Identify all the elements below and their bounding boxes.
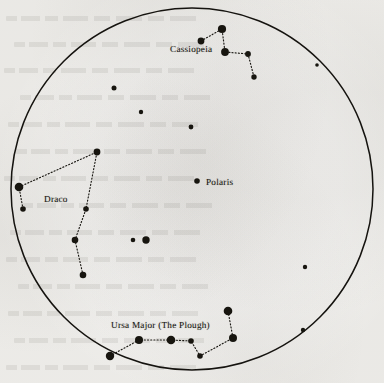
star-dot [135, 336, 143, 344]
star-dot-polaris [194, 178, 200, 184]
star-dot [188, 338, 194, 344]
background-star-dot [303, 265, 307, 269]
star-dot [94, 149, 101, 156]
label-polaris: Polaris [206, 177, 233, 187]
star-dot [15, 183, 24, 192]
background-star-dot [139, 110, 143, 114]
star-dot [83, 206, 89, 212]
star-dot [20, 206, 26, 212]
star-dot [245, 51, 251, 57]
star-dot [80, 272, 87, 279]
sky-horizon-circle [11, 8, 373, 370]
label-cassiopeia: Cassiopeia [170, 44, 212, 54]
named-stars [194, 178, 200, 184]
background-star-dot [142, 236, 149, 243]
label-draco: Draco [44, 194, 68, 204]
star-dot [72, 237, 79, 244]
background-stars [112, 63, 319, 332]
star-dot [167, 336, 176, 345]
background-star-dot [131, 238, 136, 243]
constellation-line-ursa-major-the-plough [110, 311, 233, 356]
constellation-line-draco [19, 152, 97, 275]
star-dot [197, 353, 203, 359]
star-dot [106, 352, 114, 360]
background-star-dot [189, 125, 194, 130]
star-dot [221, 48, 229, 56]
star-dot [218, 25, 226, 33]
background-star-dot [315, 63, 319, 67]
background-star-dot [301, 328, 305, 332]
background-star-dot [112, 86, 117, 91]
star-chart: CassiopeiaDracoPolarisUrsa Major (The Pl… [0, 0, 384, 383]
label-ursa-major: Ursa Major (The Plough) [111, 320, 210, 330]
star-dot [251, 74, 256, 79]
star-dot [224, 307, 233, 316]
star-dot [229, 334, 237, 342]
